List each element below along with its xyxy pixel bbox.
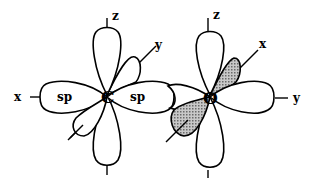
- z-axis-label: z: [112, 9, 119, 23]
- carbon-orbitals: x z y sp sp C: [14, 9, 174, 175]
- o-x-axis-label: x: [259, 37, 267, 51]
- orbital-diagram: x z y sp sp C z x y O: [0, 0, 316, 185]
- carbon-atom-symbol: C: [101, 87, 115, 107]
- sp-label-right: sp: [130, 90, 145, 104]
- y-axis: [139, 46, 156, 63]
- oxygen-atom-symbol: O: [203, 88, 218, 108]
- o-z-axis-label: z: [213, 8, 220, 22]
- x-axis-label: x: [14, 90, 22, 104]
- y-axis-label: y: [154, 38, 163, 52]
- o-x-axis: [240, 50, 258, 68]
- o-y-axis-label: y: [292, 91, 301, 105]
- sp-label-left: sp: [57, 90, 72, 104]
- oxygen-orbitals: z x y O: [166, 8, 301, 178]
